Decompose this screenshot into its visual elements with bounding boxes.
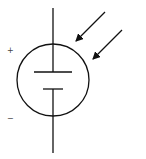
light-arrow-icon (76, 12, 105, 41)
negative-terminal-label: − (7, 114, 14, 123)
photovoltaic-cell-diagram: + − (0, 0, 146, 159)
positive-terminal-label: + (7, 46, 14, 55)
light-arrow-icon (93, 30, 122, 59)
